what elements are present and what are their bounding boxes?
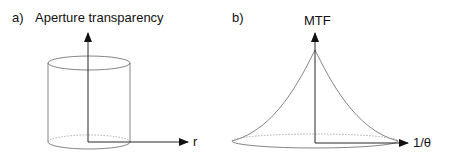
panel-b-title: MTF <box>304 13 331 28</box>
panel-b-x-axis-label: 1/θ <box>413 135 431 150</box>
panel-a-axes <box>88 33 188 142</box>
panel-a-label: a) <box>12 10 24 25</box>
panel-b-axes <box>315 33 408 143</box>
panel-a-x-axis-label: r <box>193 134 197 149</box>
panel-b-label: b) <box>232 10 244 25</box>
panel-a-title: Aperture transparency <box>35 10 164 25</box>
cylinder-shape <box>48 56 130 149</box>
